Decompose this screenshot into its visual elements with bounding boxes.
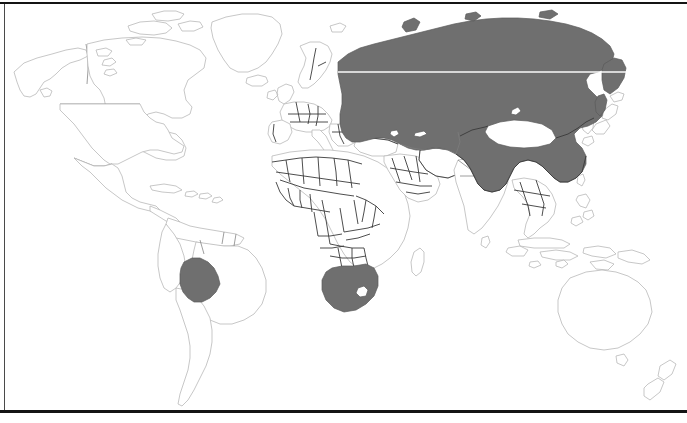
country-papua-new-guinea[interactable] (618, 250, 650, 264)
islands-pacific[interactable] (529, 260, 568, 268)
country-united-kingdom[interactable] (267, 84, 294, 104)
country-mexico[interactable] (74, 158, 160, 212)
island-novaya-zemlya-highlighted[interactable] (402, 18, 420, 32)
island-iceland[interactable] (246, 75, 268, 86)
country-australia[interactable] (558, 270, 652, 350)
region-indochina[interactable] (512, 178, 556, 238)
region-south-america (158, 218, 266, 406)
map-canvas[interactable] (0, 0, 687, 423)
island-tasmania[interactable] (616, 354, 628, 366)
country-madagascar[interactable] (411, 248, 424, 276)
scanline-artifact (338, 71, 638, 73)
region-scandinavia[interactable] (298, 42, 332, 88)
country-south-africa-highlighted[interactable] (322, 264, 378, 312)
country-philippines[interactable] (571, 194, 594, 226)
frame-top-rule (0, 2, 687, 4)
island-svalbard[interactable] (330, 23, 346, 32)
country-sri-lanka[interactable] (481, 236, 490, 248)
world-map-svg[interactable] (0, 0, 687, 423)
country-alaska[interactable] (14, 48, 88, 97)
frame-left-rule (4, 4, 5, 411)
frame-bottom-rule (0, 410, 687, 413)
world-map-figure (0, 0, 687, 423)
region-caribbean[interactable] (150, 184, 223, 203)
region-kamchatka-highlighted[interactable] (602, 58, 626, 94)
region-north-america (14, 11, 282, 224)
region-oceania (529, 260, 676, 400)
country-new-zealand[interactable] (644, 360, 676, 400)
country-greenland[interactable] (211, 14, 282, 72)
island-new-siberian-highlighted[interactable] (539, 10, 558, 19)
region-iberia[interactable] (268, 120, 292, 144)
